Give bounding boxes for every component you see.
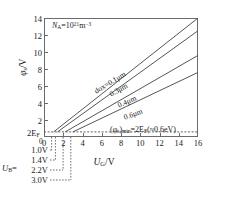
x-tick-16: 16 (194, 139, 203, 148)
x-axis-title: UG/V (93, 157, 114, 167)
doping-annotation: NA=1021m−3 (52, 21, 91, 30)
x-tick-12: 12 (155, 139, 164, 148)
doping-equals: =10 (61, 21, 74, 30)
min-tail: (≈0.6eV) (147, 125, 176, 134)
y-tick-14: 14 (34, 15, 43, 24)
x-tickmark-14 (179, 133, 180, 137)
y-tickmark-14 (44, 18, 48, 19)
ub-row-3: 3.0V (4, 176, 48, 185)
x-tick-10: 10 (136, 139, 145, 148)
y-axis-unit: /V (18, 59, 28, 69)
y-tickmark-10 (44, 52, 48, 53)
y-tickmark-12 (44, 35, 48, 36)
y-tickmark-2 (44, 120, 48, 121)
y-tickmark-6 (44, 86, 48, 87)
y-tick-4: 4 (38, 100, 42, 109)
min-potential-annotation: (φs)min=2EF(≈0.6eV) (110, 125, 176, 134)
y-tick-12: 12 (34, 32, 43, 41)
y-tickmark-8 (44, 69, 48, 70)
x-tickmark-4 (83, 133, 84, 137)
two-ef-label: 2EF (27, 128, 40, 138)
x-axis-symbol: U (93, 157, 100, 167)
x-tick-8: 8 (119, 139, 123, 148)
doping-unit-exponent: −3 (85, 21, 91, 27)
x-tick-2: 2 (61, 139, 65, 148)
chart-root: 14 12 10 8 6 4 2 2EF 0 0 2 4 6 8 10 12 1… (0, 0, 227, 200)
y-tick-6: 6 (38, 83, 42, 92)
x-tickmark-2 (63, 133, 64, 137)
x-tick-14: 14 (175, 139, 184, 148)
x-axis-unit: /V (105, 157, 115, 167)
y-axis-title: φs/V (18, 40, 28, 94)
ub-row-0: 1.0V (4, 146, 48, 155)
x-tick-4: 4 (80, 139, 84, 148)
ub-row-1: 1.4V (4, 156, 48, 165)
y-tick-8: 8 (38, 66, 42, 75)
y-tick-2: 2 (38, 117, 42, 126)
min-equals: =2E (131, 125, 144, 134)
y-axis-symbol: φ (18, 71, 28, 76)
y-axis-subscript: s (21, 68, 28, 71)
min-sub-min: min (122, 128, 130, 134)
y-tickmark-4 (44, 103, 48, 104)
ub-row-2: 2.2V (4, 166, 48, 175)
x-tick-6: 6 (100, 139, 104, 148)
y-tick-10: 10 (34, 49, 43, 58)
x-tickmark-6 (102, 133, 103, 137)
